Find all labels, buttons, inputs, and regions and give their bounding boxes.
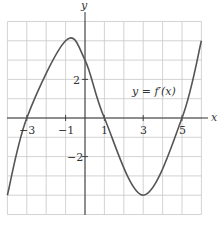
curve-label: y = f′(x) — [131, 85, 176, 98]
y-tick-label: −2 — [67, 151, 83, 164]
x-axis-label: x — [211, 111, 218, 124]
derivative-graph: x y −3 −1 1 3 5 2 −2 y = f′(x) — [0, 0, 224, 226]
x-tick-label: 1 — [101, 124, 108, 137]
axes — [7, 12, 208, 215]
y-tick-label: 2 — [73, 74, 80, 87]
x-tick-label: 3 — [140, 124, 147, 137]
x-tick-label: −1 — [58, 124, 74, 137]
x-tick-label: 5 — [179, 124, 186, 137]
y-axis-label: y — [80, 0, 88, 12]
x-tick-label: −3 — [19, 124, 35, 137]
